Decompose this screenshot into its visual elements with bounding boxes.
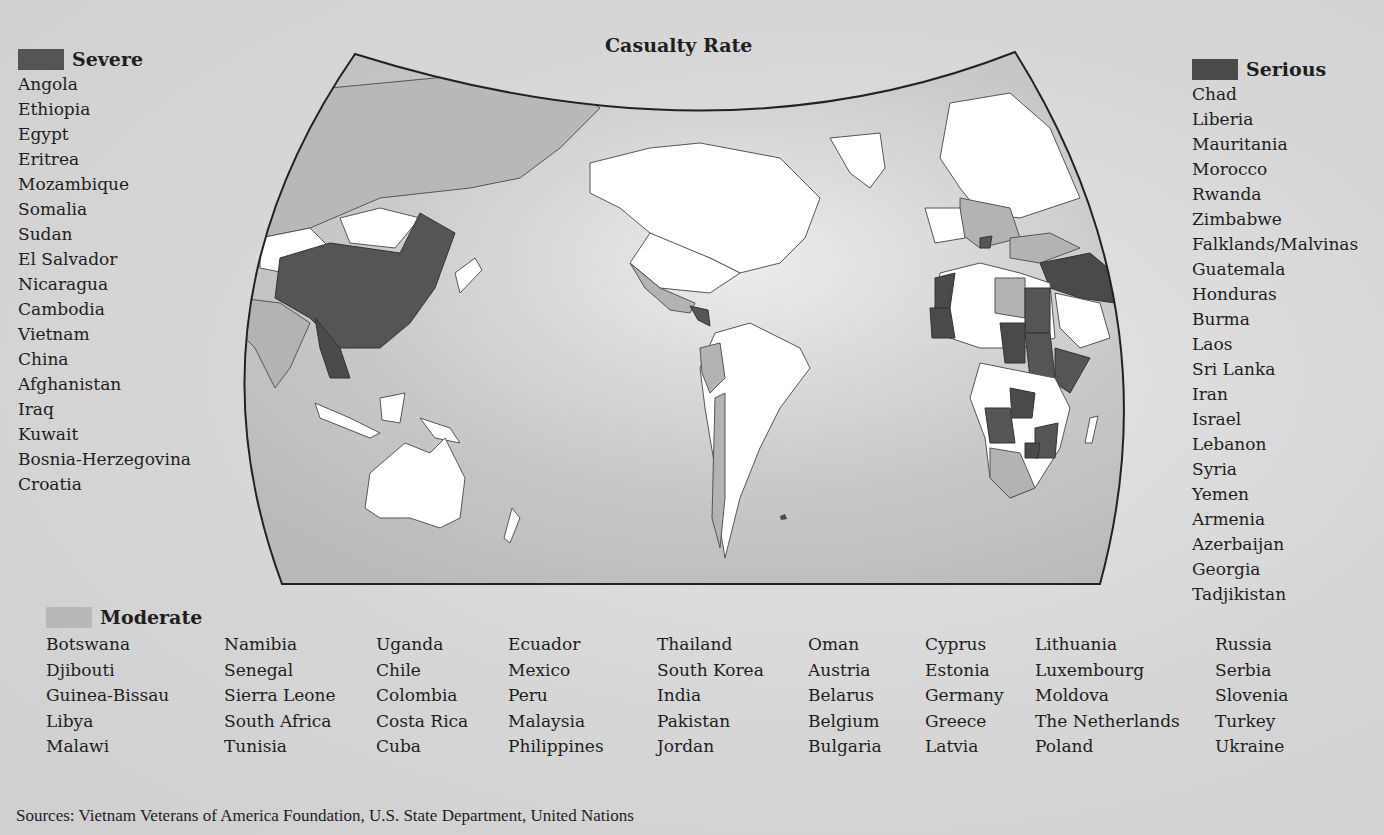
legend-country-item: Slovenia (1215, 683, 1289, 709)
legend-country-item: Armenia (1192, 507, 1358, 532)
legend-country-item: Zimbabwe (1192, 207, 1358, 232)
moderate-column: CyprusEstoniaGermanyGreeceLatvia (925, 632, 1004, 760)
legend-country-item: Luxembourg (1035, 658, 1180, 684)
legend-country-item: Serbia (1215, 658, 1289, 684)
legend-country-item: Croatia (18, 472, 191, 497)
legend-severe-header: Severe (18, 48, 191, 70)
legend-country-item: Eritrea (18, 147, 191, 172)
legend-country-item: Ukraine (1215, 734, 1289, 760)
legend-moderate-label: Moderate (100, 606, 202, 628)
moderate-column: BotswanaDjiboutiGuinea-BissauLibyaMalawi (46, 632, 169, 760)
legend-country-item: Thailand (657, 632, 764, 658)
legend-country-item: Syria (1192, 457, 1358, 482)
legend-country-item: Greece (925, 709, 1004, 735)
moderate-column: NamibiaSenegalSierra LeoneSouth AfricaTu… (224, 632, 336, 760)
legend-country-item: Estonia (925, 658, 1004, 684)
legend-country-item: Senegal (224, 658, 336, 684)
legend-country-item: Jordan (657, 734, 764, 760)
legend-country-item: Chad (1192, 82, 1358, 107)
legend-country-item: The Netherlands (1035, 709, 1180, 735)
legend-country-item: Mozambique (18, 172, 191, 197)
serious-country-list: ChadLiberiaMauritaniaMoroccoRwandaZimbab… (1192, 82, 1358, 607)
legend-country-item: Rwanda (1192, 182, 1358, 207)
legend-country-item: Bosnia-Herzegovina (18, 447, 191, 472)
legend-country-item: Iraq (18, 397, 191, 422)
legend-country-item: Vietnam (18, 322, 191, 347)
moderate-column: ThailandSouth KoreaIndiaPakistanJordan (657, 632, 764, 760)
moderate-swatch-icon (46, 607, 92, 628)
legend-country-item: Austria (808, 658, 882, 684)
legend-country-item: Colombia (376, 683, 468, 709)
legend-country-item: Azerbaijan (1192, 532, 1358, 557)
legend-country-item: Turkey (1215, 709, 1289, 735)
legend-country-item: Botswana (46, 632, 169, 658)
legend-country-item: Falklands/Malvinas (1192, 232, 1358, 257)
world-map-graphic (220, 48, 1180, 588)
legend-country-item: Ecuador (508, 632, 604, 658)
legend-country-item: Cyprus (925, 632, 1004, 658)
legend-country-item: Djibouti (46, 658, 169, 684)
legend-country-item: China (18, 347, 191, 372)
legend-country-item: Guatemala (1192, 257, 1358, 282)
legend-country-item: Somalia (18, 197, 191, 222)
legend-country-item: Sudan (18, 222, 191, 247)
legend-country-item: South Korea (657, 658, 764, 684)
severe-swatch-icon (18, 49, 64, 70)
legend-country-item: Belgium (808, 709, 882, 735)
moderate-column: LithuaniaLuxembourgMoldovaThe Netherland… (1035, 632, 1180, 760)
legend-country-item: Iran (1192, 382, 1358, 407)
legend-country-item: Mauritania (1192, 132, 1358, 157)
legend-country-item: Guinea-Bissau (46, 683, 169, 709)
legend-country-item: Yemen (1192, 482, 1358, 507)
legend-country-item: Moldova (1035, 683, 1180, 709)
legend-country-item: Honduras (1192, 282, 1358, 307)
legend-country-item: Kuwait (18, 422, 191, 447)
legend-country-item: Sri Lanka (1192, 357, 1358, 382)
legend-country-item: Pakistan (657, 709, 764, 735)
legend-country-item: South Africa (224, 709, 336, 735)
severe-country-list: AngolaEthiopiaEgyptEritreaMozambiqueSoma… (18, 72, 191, 497)
legend-country-item: Israel (1192, 407, 1358, 432)
legend-country-item: Tadjikistan (1192, 582, 1358, 607)
legend-country-item: Bulgaria (808, 734, 882, 760)
legend-country-item: Morocco (1192, 157, 1358, 182)
legend-country-item: Russia (1215, 632, 1289, 658)
legend-country-item: Malawi (46, 734, 169, 760)
sources-footnote: Sources: Vietnam Veterans of America Fou… (16, 806, 634, 826)
world-map (220, 48, 1180, 588)
legend-country-item: Ethiopia (18, 97, 191, 122)
legend-country-item: Georgia (1192, 557, 1358, 582)
moderate-column: RussiaSerbiaSloveniaTurkeyUkraine (1215, 632, 1289, 760)
legend-country-item: Malaysia (508, 709, 604, 735)
legend-country-item: Afghanistan (18, 372, 191, 397)
legend-country-item: Belarus (808, 683, 882, 709)
legend-country-item: Latvia (925, 734, 1004, 760)
legend-country-item: Peru (508, 683, 604, 709)
legend-country-item: Libya (46, 709, 169, 735)
legend-moderate-header: Moderate (46, 606, 202, 628)
legend-country-item: Laos (1192, 332, 1358, 357)
moderate-column: EcuadorMexicoPeruMalaysiaPhilippines (508, 632, 604, 760)
legend-country-item: Lithuania (1035, 632, 1180, 658)
legend-country-item: Cuba (376, 734, 468, 760)
legend-country-item: Tunisia (224, 734, 336, 760)
legend-country-item: El Salvador (18, 247, 191, 272)
legend-country-item: Liberia (1192, 107, 1358, 132)
legend-country-item: Lebanon (1192, 432, 1358, 457)
legend-country-item: Nicaragua (18, 272, 191, 297)
legend-serious: Serious ChadLiberiaMauritaniaMoroccoRwan… (1192, 58, 1358, 607)
legend-severe-label: Severe (72, 48, 143, 70)
legend-country-item: Egypt (18, 122, 191, 147)
moderate-column: OmanAustriaBelarusBelgiumBulgaria (808, 632, 882, 760)
legend-country-item: Mexico (508, 658, 604, 684)
legend-serious-label: Serious (1246, 58, 1326, 80)
legend-country-item: Costa Rica (376, 709, 468, 735)
legend-country-item: Angola (18, 72, 191, 97)
legend-country-item: Germany (925, 683, 1004, 709)
legend-country-item: Uganda (376, 632, 468, 658)
legend-country-item: India (657, 683, 764, 709)
moderate-column: UgandaChileColombiaCosta RicaCuba (376, 632, 468, 760)
legend-severe: Severe AngolaEthiopiaEgyptEritreaMozambi… (18, 48, 191, 497)
serious-swatch-icon (1192, 59, 1238, 80)
legend-country-item: Cambodia (18, 297, 191, 322)
